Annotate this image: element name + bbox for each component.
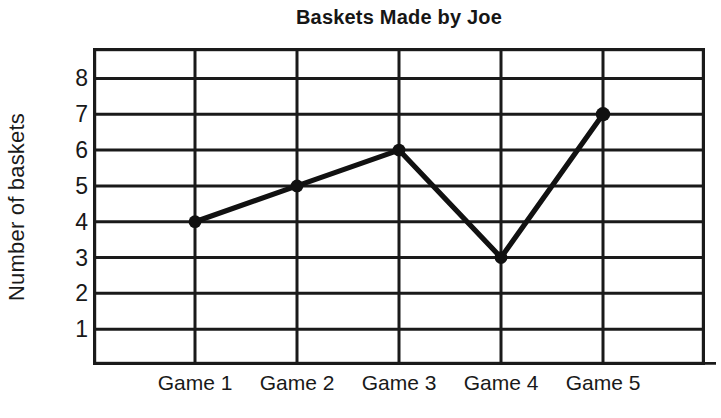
chart-page: Baskets Made by Joe Number of baskets 87…: [0, 0, 721, 418]
y-axis-tick-labels: 87654321: [30, 48, 88, 365]
y-axis-title-container: Number of baskets: [0, 48, 34, 365]
x-axis-tick-labels: Game 1Game 2Game 3Game 4Game 5: [93, 371, 705, 405]
vertical-gridlines: [195, 48, 603, 365]
chart-title: Baskets Made by Joe: [93, 6, 705, 29]
y-tick-label: 5: [42, 174, 88, 197]
data-point: [189, 215, 202, 228]
y-tick-label: 3: [42, 246, 88, 269]
y-tick-label: 4: [42, 210, 88, 233]
y-tick-label: 2: [42, 282, 88, 305]
data-point: [393, 144, 406, 157]
y-tick-label: 6: [42, 139, 88, 162]
data-point: [291, 180, 304, 193]
y-tick-label: 7: [42, 103, 88, 126]
data-point: [596, 107, 610, 121]
y-axis-title: Number of baskets: [4, 112, 30, 300]
y-tick-label: 1: [42, 318, 88, 341]
chart-svg: [93, 48, 705, 365]
data-point: [495, 251, 508, 264]
plot-area: [93, 48, 705, 365]
x-tick-label: Game 5: [533, 371, 673, 395]
y-tick-label: 8: [42, 67, 88, 90]
